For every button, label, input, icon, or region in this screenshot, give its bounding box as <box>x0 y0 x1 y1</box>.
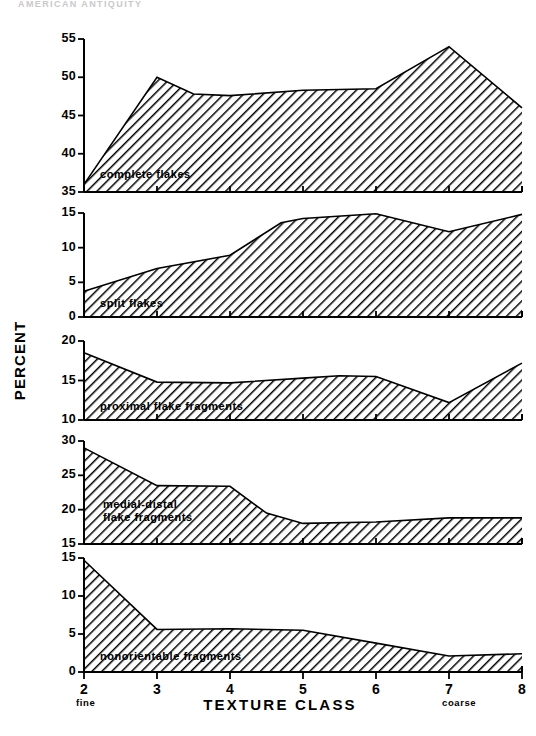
y-axis-title: PERCENT <box>11 316 28 406</box>
y-axis-tick-label: 5 <box>38 274 76 288</box>
series-label-line1: medial-distal <box>103 498 193 511</box>
series-label-5: nonorientable fragments <box>100 650 242 663</box>
series-label-2: split flakes <box>100 297 163 310</box>
y-axis-tick-label: 15 <box>38 373 76 387</box>
chart-canvas <box>0 0 536 736</box>
y-axis-tick-label: 45 <box>38 108 76 122</box>
panel-area-fill <box>84 448 522 544</box>
y-axis-tick-label: 35 <box>38 184 76 198</box>
x-axis-tick-label: 4 <box>215 681 245 697</box>
y-axis-tick-label: 10 <box>38 588 76 602</box>
y-axis-tick-label: 55 <box>38 31 76 45</box>
figure-page: AMERICAN ANTIQUITY PERCENT TEXTURE CLASS… <box>0 0 536 736</box>
y-axis-tick-label: 5 <box>38 626 76 640</box>
y-axis-tick-label: 30 <box>38 433 76 447</box>
y-axis-tick-label: 50 <box>38 69 76 83</box>
series-label-1: complete flakes <box>100 168 191 181</box>
y-axis-tick-label: 25 <box>38 467 76 481</box>
x-axis-title: TEXTURE CLASS <box>150 696 410 713</box>
x-axis-fine-label: fine <box>76 697 95 708</box>
x-axis-tick-label: 5 <box>288 681 318 697</box>
x-axis-coarse-label: coarse <box>442 697 476 708</box>
series-label-4: medial-distalflake fragments <box>103 498 193 524</box>
y-axis-tick-label: 0 <box>38 309 76 323</box>
multi-panel-area-chart: PERCENT TEXTURE CLASS fine coarse 354045… <box>0 0 536 736</box>
series-label-line2: flake fragments <box>103 511 193 524</box>
x-axis-tick-label: 6 <box>361 681 391 697</box>
y-axis-tick-label: 0 <box>38 664 76 678</box>
y-axis-tick-label: 10 <box>38 240 76 254</box>
x-axis-tick-label: 8 <box>507 681 536 697</box>
x-axis-tick-label: 7 <box>434 681 464 697</box>
series-label-3: proximal flake fragments <box>100 400 243 413</box>
y-axis-tick-label: 20 <box>38 502 76 516</box>
x-axis-tick-label: 3 <box>142 681 172 697</box>
y-axis-tick-label: 15 <box>38 205 76 219</box>
y-axis-tick-label: 10 <box>38 412 76 426</box>
y-axis-tick-label: 40 <box>38 146 76 160</box>
y-axis-tick-label: 15 <box>38 536 76 550</box>
y-axis-tick-label: 15 <box>38 550 76 564</box>
y-axis-tick-label: 20 <box>38 333 76 347</box>
x-axis-tick-label: 2 <box>69 681 99 697</box>
